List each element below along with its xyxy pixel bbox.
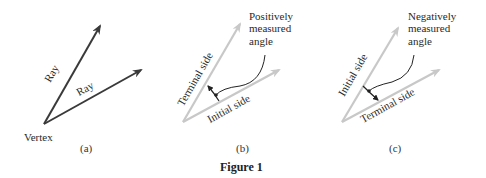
annotation-negative-line2: measured: [408, 22, 450, 34]
leader-line: [216, 55, 265, 95]
panel-a-drawing: [44, 26, 141, 124]
caption-a: (a): [80, 142, 92, 154]
annotation-positive-line2: measured: [249, 22, 291, 34]
annotation-positive-line3: angle: [249, 35, 273, 47]
angle-arc-negative: [363, 86, 378, 100]
caption-b: (b): [236, 142, 249, 154]
annotation-negative-line1: Negatively: [408, 10, 456, 22]
annotation-negative-line3: angle: [408, 35, 432, 47]
vertex-label: Vertex: [24, 131, 53, 143]
annotation-positive-line1: Positively: [249, 10, 293, 22]
leader-line: [369, 55, 414, 91]
caption-c: (c): [389, 142, 401, 154]
figure-title: Figure 1: [220, 160, 263, 175]
